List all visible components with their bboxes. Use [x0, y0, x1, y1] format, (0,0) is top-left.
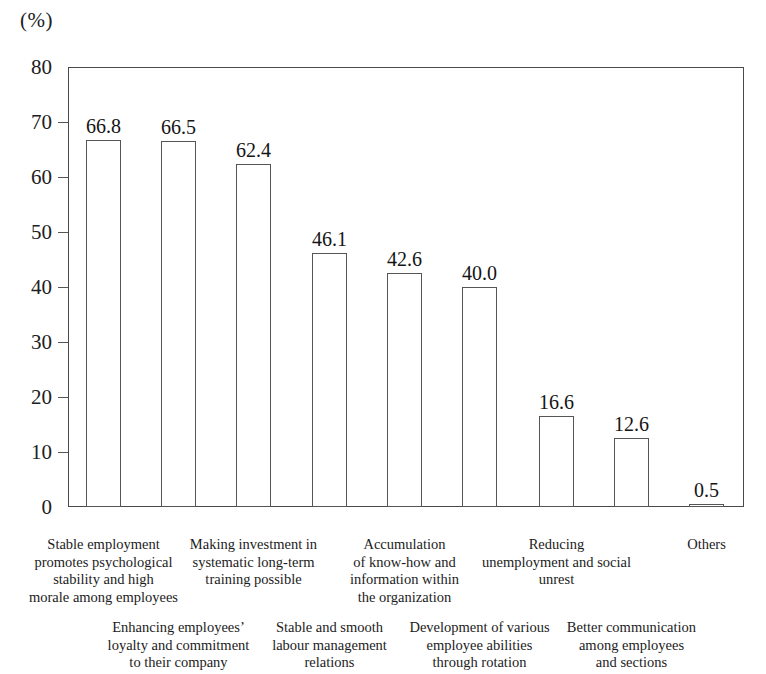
bar-value-label: 42.6: [365, 249, 445, 269]
y-axis-tick-label: 60: [0, 167, 52, 188]
y-axis-tick-label: 50: [0, 222, 52, 243]
category-label: Others: [618, 536, 766, 554]
y-axis-tick-label: 40: [0, 277, 52, 298]
y-axis-tick: [58, 342, 68, 343]
bar-value-label: 16.6: [517, 392, 597, 412]
bar-value-label: 62.4: [214, 140, 294, 160]
category-label-line: Others: [618, 536, 766, 554]
category-label-line: morale among employees: [15, 589, 193, 607]
bar-value-label: 40.0: [440, 263, 520, 283]
y-axis-tick-label: 0: [0, 497, 52, 518]
bar: [236, 164, 271, 507]
bar-value-label: 66.8: [64, 116, 144, 136]
y-axis-tick-label: 70: [0, 112, 52, 133]
category-label-line: Better communication: [543, 619, 721, 637]
category-label: Better communicationamong employeesand s…: [543, 619, 721, 672]
bar-value-label: 12.6: [592, 414, 672, 434]
y-axis-tick: [58, 452, 68, 453]
bar-value-label: 0.5: [667, 480, 747, 500]
bar-chart: (%) 80706050403020100 66.866.562.446.142…: [0, 0, 766, 674]
category-label-line: unrest: [468, 571, 646, 589]
bar: [161, 141, 196, 507]
y-axis-tick: [58, 287, 68, 288]
bar: [462, 287, 497, 507]
bar-value-label: 46.1: [290, 229, 370, 249]
y-axis-tick-label: 10: [0, 442, 52, 463]
category-label-line: among employees: [543, 637, 721, 655]
y-axis-tick-label: 80: [0, 57, 52, 78]
y-axis-tick: [58, 177, 68, 178]
category-label-line: unemployment and social: [468, 554, 646, 572]
y-axis-unit-label: (%): [20, 10, 53, 31]
bar: [689, 504, 724, 507]
bar: [387, 273, 422, 507]
bar: [614, 438, 649, 507]
y-axis-tick-label: 30: [0, 332, 52, 353]
category-label-line: the organization: [316, 589, 494, 607]
y-axis-tick: [58, 232, 68, 233]
bar: [312, 253, 347, 507]
bar: [86, 140, 121, 507]
bar: [539, 416, 574, 507]
bar-value-label: 66.5: [139, 117, 219, 137]
category-label-line: and sections: [543, 654, 721, 672]
y-axis-tick: [58, 397, 68, 398]
y-axis-tick-label: 20: [0, 387, 52, 408]
